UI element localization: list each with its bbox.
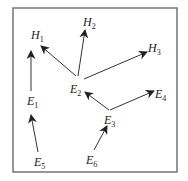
node-label-e1: E1	[26, 94, 38, 110]
node-label-e5: E5	[33, 155, 45, 171]
edge-e2-to-h2	[78, 30, 85, 76]
node-label-e6: E6	[85, 153, 97, 169]
node-label-h3: H3	[147, 41, 161, 57]
edge-e3-to-e2	[85, 92, 109, 110]
edge-e3-to-e4	[110, 91, 154, 110]
edge-group	[31, 30, 154, 152]
edge-e6-to-e3	[94, 126, 107, 150]
edge-e2-to-h1	[41, 46, 76, 76]
graph-diagram: H1H2H3E1E2E3E4E5E6	[0, 0, 188, 181]
node-label-h2: H2	[82, 15, 96, 31]
node-group: H1H2H3E1E2E3E4E5E6	[26, 15, 166, 171]
node-label-e2: E2	[69, 82, 81, 98]
edge-e2-to-h3	[84, 52, 147, 79]
edge-e5-to-e1	[31, 115, 38, 152]
node-label-e3: E3	[103, 113, 115, 129]
node-label-e4: E4	[154, 87, 166, 103]
node-label-h1: H1	[30, 28, 44, 44]
